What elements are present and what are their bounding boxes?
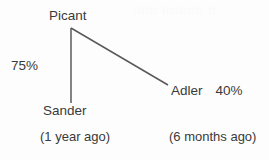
diagram-canvas: tititi ittitttttt tt Picant 75% Sander A… (0, 0, 269, 160)
node-label-adler: Adler (171, 83, 203, 98)
edge-percent-right: 40% (216, 83, 243, 98)
node-label-sander: Sander (43, 104, 87, 118)
edge-percent-left: 75% (11, 59, 38, 73)
caption-sander-time: (1 year ago) (40, 130, 110, 143)
caption-adler-time: (6 months ago) (169, 130, 256, 143)
edge-picant-to-adler (71, 28, 168, 85)
node-label-adler-group: Adler40% (171, 84, 243, 98)
node-label-picant: Picant (49, 9, 87, 23)
